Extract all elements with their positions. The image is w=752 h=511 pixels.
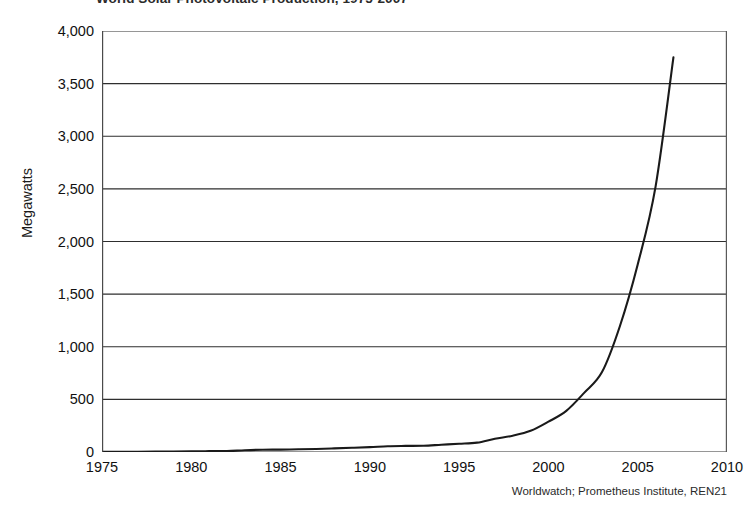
x-axis-tick-labels: 19751980198519901995200020052010: [0, 459, 752, 481]
y-tick-label: 4,000: [22, 24, 94, 39]
y-axis-tick-labels: 05001,0001,5002,0002,5003,0003,5004,000: [22, 0, 94, 511]
plot-svg: [102, 31, 727, 452]
x-tick-label: 2005: [598, 459, 678, 475]
gridlines: [102, 31, 727, 452]
plot-area: [102, 31, 727, 452]
chart-figure: World Solar Photovoltaic Production, 197…: [0, 0, 752, 511]
y-tick-label: 0: [22, 445, 94, 460]
y-tick-label: 3,500: [22, 77, 94, 92]
y-tick-label: 1,000: [22, 340, 94, 355]
y-tick-label: 1,500: [22, 287, 94, 302]
x-tick-label: 1980: [151, 459, 231, 475]
source-note: Worldwatch; Prometheus Institute, REN21: [0, 485, 727, 497]
x-tick-label: 1975: [62, 459, 142, 475]
x-tick-label: 2010: [687, 459, 752, 475]
y-tick-label: 500: [22, 392, 94, 407]
x-tick-label: 1985: [241, 459, 321, 475]
data-series-line: [102, 57, 673, 451]
y-tick-label: 2,500: [22, 182, 94, 197]
y-tick-label: 3,000: [22, 129, 94, 144]
y-tick-label: 2,000: [22, 235, 94, 250]
x-tick-label: 1995: [419, 459, 499, 475]
x-tick-label: 2000: [508, 459, 588, 475]
chart-title: World Solar Photovoltaic Production, 197…: [96, 0, 696, 9]
x-tick-label: 1990: [330, 459, 410, 475]
